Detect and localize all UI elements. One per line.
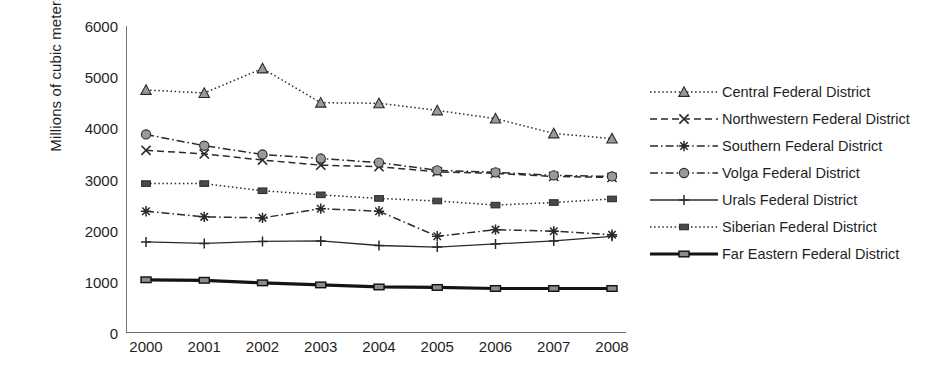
legend-item[interactable]: Siberian Federal District xyxy=(648,213,926,240)
y-tick-label: 5000 xyxy=(60,69,118,86)
legend-item-label: Southern Federal District xyxy=(720,138,882,154)
marker-asterisk xyxy=(257,213,267,223)
marker-circle xyxy=(491,168,500,177)
series-5 xyxy=(141,231,617,252)
marker-circle xyxy=(258,150,267,159)
legend: Central Federal DistrictNorthwestern Fed… xyxy=(648,78,926,267)
marker-square xyxy=(491,202,500,208)
legend-item[interactable]: Volga Federal District xyxy=(648,159,926,186)
legend-item[interactable]: Far Eastern Federal District xyxy=(648,240,926,267)
marker-square-bold xyxy=(491,286,501,292)
marker-square xyxy=(316,192,325,198)
legend-marker-circle-icon xyxy=(648,162,720,184)
y-axis-tick-labels: 0100020003000400050006000 xyxy=(52,26,118,333)
marker-asterisk xyxy=(316,203,326,213)
legend-item[interactable]: Central Federal District xyxy=(648,78,926,105)
marker-circle xyxy=(141,130,150,139)
marker-plus xyxy=(491,239,501,249)
x-tick-label: 2005 xyxy=(407,338,467,355)
marker-square-bold xyxy=(549,286,559,292)
x-tick-label: 2008 xyxy=(582,338,642,355)
x-tick-label: 2002 xyxy=(233,338,293,355)
legend-item[interactable]: Southern Federal District xyxy=(648,132,926,159)
marker-plus xyxy=(607,231,617,241)
series-6 xyxy=(142,181,617,208)
marker-square-bold xyxy=(374,284,384,290)
legend-item-label: Siberian Federal District xyxy=(720,219,877,235)
y-tick-label: 6000 xyxy=(60,18,118,35)
legend-item-label: Far Eastern Federal District xyxy=(720,246,899,262)
marker-asterisk xyxy=(490,224,500,234)
marker-square-bold xyxy=(199,277,209,283)
marker-circle xyxy=(200,141,209,150)
legend-item-label: Central Federal District xyxy=(720,84,870,100)
legend-item[interactable]: Urals Federal District xyxy=(648,186,926,213)
marker-plus xyxy=(199,238,209,248)
x-axis-tick-labels: 200020012002200320042005200620072008 xyxy=(126,338,626,360)
series-3 xyxy=(141,203,617,241)
marker-circle xyxy=(679,168,688,177)
legend-item-label: Volga Federal District xyxy=(720,165,860,181)
legend-marker-plus-icon xyxy=(648,189,720,211)
series-line xyxy=(146,184,612,205)
x-tick-label: 2003 xyxy=(291,338,351,355)
marker-square xyxy=(680,224,689,230)
y-tick-label: 4000 xyxy=(60,120,118,137)
plot-area xyxy=(126,26,626,333)
marker-circle xyxy=(374,158,383,167)
marker-circle xyxy=(316,154,325,163)
marker-square-bold xyxy=(432,285,442,291)
legend-marker-square-icon xyxy=(648,216,720,238)
line-chart-figure: Millions of cubic meters 010002000300040… xyxy=(0,0,931,376)
marker-asterisk xyxy=(199,212,209,222)
marker-triangle xyxy=(257,63,267,73)
marker-asterisk xyxy=(679,140,689,150)
legend-marker-asterisk-icon xyxy=(648,135,720,157)
marker-square xyxy=(142,181,151,187)
marker-square-bold xyxy=(316,282,326,288)
y-tick-label: 2000 xyxy=(60,222,118,239)
y-tick-label: 0 xyxy=(60,325,118,342)
legend-marker-x-icon xyxy=(648,108,720,130)
marker-asterisk xyxy=(141,206,151,216)
marker-circle xyxy=(607,172,616,181)
legend-marker-square-bold-icon xyxy=(648,243,720,265)
marker-triangle xyxy=(374,98,384,108)
x-tick-label: 2004 xyxy=(349,338,409,355)
marker-square-bold xyxy=(141,277,151,283)
legend-item[interactable]: Northwestern Federal District xyxy=(648,105,926,132)
marker-asterisk xyxy=(374,206,384,216)
marker-plus xyxy=(374,241,384,251)
marker-triangle xyxy=(141,85,151,95)
legend-item-label: Urals Federal District xyxy=(720,192,857,208)
marker-square xyxy=(608,196,617,202)
marker-square-bold xyxy=(607,286,617,292)
legend-marker-triangle-icon xyxy=(648,81,720,103)
series-7 xyxy=(141,277,617,291)
plot-svg xyxy=(126,26,626,333)
marker-plus xyxy=(549,236,559,246)
marker-square xyxy=(375,196,384,202)
marker-circle xyxy=(549,171,558,180)
marker-square xyxy=(258,188,267,194)
marker-square xyxy=(433,198,442,204)
marker-circle xyxy=(433,166,442,175)
marker-plus xyxy=(679,195,689,205)
marker-plus xyxy=(141,237,151,247)
y-tick-label: 3000 xyxy=(60,171,118,188)
marker-plus xyxy=(432,242,442,252)
x-tick-label: 2000 xyxy=(116,338,176,355)
x-tick-label: 2007 xyxy=(524,338,584,355)
marker-square xyxy=(549,200,558,206)
marker-square xyxy=(200,181,209,187)
marker-asterisk xyxy=(432,231,442,241)
legend-item-label: Northwestern Federal District xyxy=(720,111,910,127)
marker-triangle xyxy=(549,128,559,138)
marker-square-bold xyxy=(258,280,268,286)
series-1 xyxy=(141,63,617,143)
marker-asterisk xyxy=(549,226,559,236)
marker-square-bold xyxy=(679,251,689,257)
marker-plus xyxy=(258,236,268,246)
marker-triangle xyxy=(432,105,442,115)
marker-plus xyxy=(316,236,326,246)
